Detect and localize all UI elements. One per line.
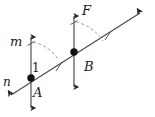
label-line-n: n bbox=[3, 76, 11, 88]
angle-arc-at-b bbox=[76, 22, 103, 41]
tick-mark-segment-upper bbox=[105, 31, 111, 40]
label-angle-1: 1 bbox=[32, 62, 40, 74]
point-b-dot bbox=[70, 48, 77, 55]
label-line-m: m bbox=[10, 35, 22, 48]
geometry-figure: m n F A B 1 bbox=[0, 0, 155, 117]
figure-canvas bbox=[0, 0, 155, 117]
label-point-a: A bbox=[33, 86, 42, 99]
point-a-dot bbox=[27, 74, 34, 81]
label-point-b: B bbox=[84, 60, 94, 73]
angle-arc-at-a bbox=[33, 42, 59, 60]
label-line-f: F bbox=[82, 4, 91, 17]
